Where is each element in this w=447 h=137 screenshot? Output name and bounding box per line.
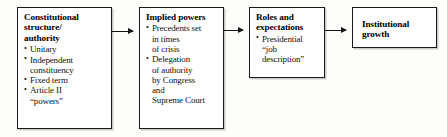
- list-item: Presidential “job description”: [256, 34, 319, 65]
- flow-box-constitutional-structure: Constitutional structure/ authority Unit…: [17, 7, 112, 129]
- list-item: Independent constituency: [24, 55, 106, 76]
- arrow-right-icon: [224, 30, 243, 31]
- bullet-list: Precedents set in times of crisis Delega…: [146, 23, 218, 105]
- list-item: Fixed term: [24, 75, 106, 85]
- flow-box-roles-and-expectations: Roles and expectations Presidential “job…: [249, 7, 325, 78]
- box-heading: Institutional growth: [362, 19, 431, 40]
- arrow-right-icon: [112, 31, 133, 32]
- flow-box-implied-powers: Implied powers Precedents set in times o…: [139, 7, 224, 129]
- arrow-right-icon: [325, 30, 346, 31]
- box-heading: Implied powers: [146, 12, 218, 22]
- list-item: Article II “powers”: [24, 85, 106, 106]
- list-item: Unitary: [24, 44, 106, 54]
- bullet-list: Presidential “job description”: [256, 34, 319, 65]
- list-item: Delegation of authority by Congress and …: [146, 54, 218, 105]
- box-heading: Constitutional structure/ authority: [24, 12, 106, 43]
- flow-diagram: Constitutional structure/ authority Unit…: [0, 0, 447, 137]
- bullet-list: Unitary Independent constituency Fixed t…: [24, 44, 106, 106]
- list-item: Precedents set in times of crisis: [146, 23, 218, 54]
- flow-box-institutional-growth: Institutional growth: [352, 7, 437, 48]
- box-heading: Roles and expectations: [256, 12, 319, 33]
